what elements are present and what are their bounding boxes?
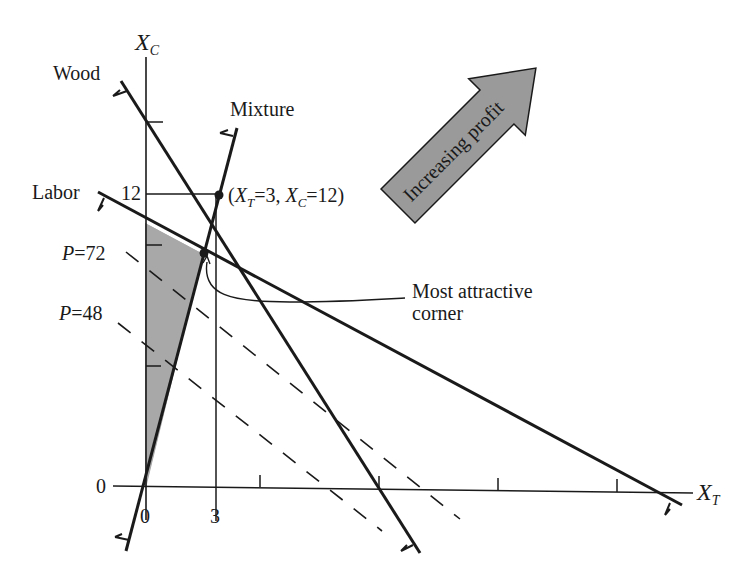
increasing-profit-arrow: Increasing profit (370, 40, 564, 234)
increasing-profit-label: Increasing profit (398, 96, 508, 206)
point-label: (XT=3, XC=12) (228, 184, 344, 210)
point-xt3-xc12 (215, 191, 224, 200)
profit-48-label: P=48 (58, 302, 103, 324)
x-tick-label-3: 3 (210, 505, 220, 527)
annotation-leader (206, 262, 405, 302)
annotation-line-2: corner (412, 302, 463, 324)
mixture-direction-arrow-icon (220, 130, 233, 136)
labor-label: Labor (32, 181, 80, 203)
annotation-line-1: Most attractive (412, 280, 533, 302)
mixture-label: Mixture (230, 98, 295, 120)
lp-diagram: Increasing profit XC XT 0 0 3 12 Wood Mi… (0, 0, 744, 580)
profit-line-72 (126, 252, 460, 519)
mixture-direction-arrow-icon (115, 534, 129, 540)
y-axis-label: XC (134, 29, 160, 58)
x-origin-label: 0 (140, 505, 150, 527)
optimal-corner-point (200, 249, 209, 258)
profit-72-label: P=72 (61, 242, 106, 264)
y-origin-label: 0 (96, 475, 106, 497)
x-axis (113, 486, 693, 493)
wood-direction-arrow-icon (401, 545, 413, 551)
y-tick-label-12: 12 (121, 182, 141, 204)
x-axis-label: XT (696, 479, 721, 508)
wood-direction-arrow-icon (113, 90, 127, 96)
labor-direction-arrow-icon (98, 198, 104, 211)
labor-direction-arrow-icon (665, 503, 670, 515)
wood-label: Wood (53, 62, 100, 84)
labor-constraint-line (98, 192, 682, 505)
